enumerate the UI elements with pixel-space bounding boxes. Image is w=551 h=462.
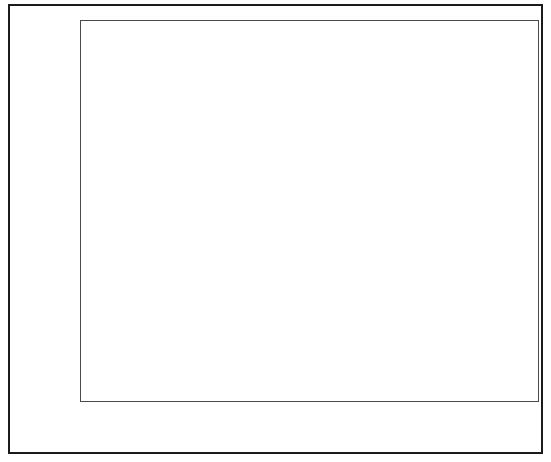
plot-area	[80, 20, 539, 402]
figure-container	[0, 0, 551, 462]
figure-frame	[8, 4, 543, 454]
